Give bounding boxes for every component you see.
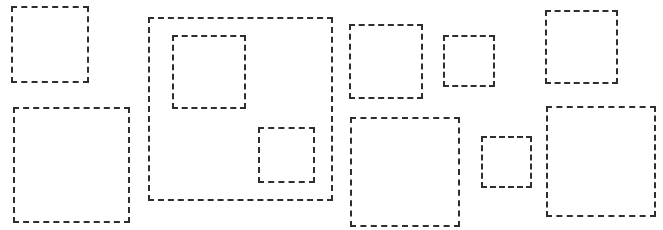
- dashed-box-2: [13, 107, 130, 223]
- dashed-box-6: [350, 117, 460, 227]
- dashed-box-5: [443, 35, 495, 87]
- diagram-canvas: [0, 0, 663, 230]
- dashed-box-1: [11, 6, 89, 83]
- dashed-inner-box-bottom-right: [258, 127, 315, 183]
- dashed-box-9: [546, 106, 656, 217]
- dashed-box-7: [481, 136, 532, 188]
- dashed-box-4: [349, 24, 423, 99]
- dashed-inner-box-top-left: [172, 35, 246, 109]
- dashed-box-8: [545, 10, 618, 84]
